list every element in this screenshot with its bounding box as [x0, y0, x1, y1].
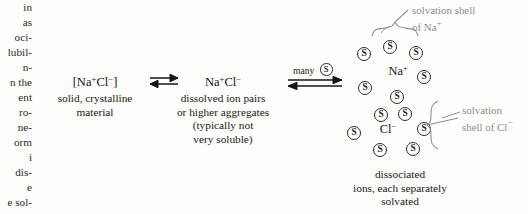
body-text-line: e	[27, 182, 32, 193]
body-text-line: ro-	[19, 107, 32, 118]
body-text-line: as	[23, 17, 32, 28]
cation-label-na: Na+	[388, 64, 407, 79]
solvent-molecule-icon: S	[417, 70, 431, 84]
body-text-line: i	[29, 152, 32, 163]
solvent-molecule-icon: S	[409, 46, 423, 60]
na-solvation-shell-label: solvation shell of Na+	[412, 4, 475, 34]
solvent-molecule-icon: S	[357, 47, 371, 61]
equilibrium-arrow-1	[150, 74, 178, 88]
stage1-caption-line: material	[58, 106, 133, 120]
body-text-line: oci-	[15, 32, 32, 43]
stage3-caption-line: ions, each separately	[353, 182, 447, 196]
solvent-molecule-icon: S	[358, 81, 372, 95]
cl-solvation-shell-label-line: solvation	[462, 104, 513, 117]
solvent-molecule-icon: S	[320, 63, 333, 76]
body-text-line: in	[23, 2, 32, 13]
stage1-formula: [Na+Cl−]	[73, 74, 118, 90]
cut-off-body-text-column: in as oci- lubil- n- n the ent ro- ne- o…	[0, 0, 34, 214]
body-text-line: n the	[10, 77, 32, 88]
stage3-caption-line: dissociated	[353, 168, 447, 182]
na-solvation-shell-label-line: solvation shell	[412, 4, 475, 17]
body-text-line: ent	[18, 92, 32, 103]
cl-solvation-shell-label: solvation shell of Cl−	[462, 104, 513, 134]
stage2-formula: Na+Cl−	[205, 74, 241, 90]
cl-shell-leader	[427, 118, 458, 125]
body-text-line: lubil-	[8, 47, 32, 58]
body-text-line: n-	[23, 62, 32, 73]
solvent-molecule-icon: S	[398, 107, 412, 121]
solvent-molecule-icon: S	[373, 143, 387, 157]
solvent-molecule-icon: S	[417, 122, 431, 136]
stage2-caption: dissolved ion pairs or higher aggregates…	[177, 92, 269, 146]
cl-solvation-shell-label-line: shell of Cl−	[462, 117, 513, 134]
anion-label-cl: Cl−	[380, 122, 396, 137]
na-solvation-shell-label-line: of Na+	[412, 17, 475, 34]
arrow2-label: many	[293, 64, 314, 77]
cl-shell-leader-2	[442, 112, 460, 118]
solvent-molecule-icon: S	[406, 142, 420, 156]
solvent-molecule-icon: S	[347, 126, 361, 140]
body-text-line: ne-	[18, 122, 32, 133]
stage2-caption-line: very soluble)	[177, 133, 269, 147]
na-shell-leader	[395, 10, 408, 22]
equilibrium-arrow-2	[288, 76, 342, 89]
stage3-caption: dissociated ions, each separately solvat…	[353, 168, 447, 209]
stage3-caption-line: solvated	[353, 195, 447, 209]
body-text-line: e sol-	[7, 197, 32, 208]
solvent-molecule-icon: S	[374, 108, 388, 122]
stage2-caption-line: (typically not	[177, 119, 269, 133]
solvent-molecule-icon: S	[383, 40, 397, 54]
body-text-line: dis-	[15, 167, 32, 178]
body-text-line: orm	[14, 137, 32, 148]
na-shell-leader-tail	[381, 26, 390, 33]
stage2-caption-line: dissolved ion pairs	[177, 92, 269, 106]
stage1-caption-line: solid, crystalline	[58, 92, 133, 106]
stage2-caption-line: or higher aggregates	[177, 106, 269, 120]
figure-canvas: in as oci- lubil- n- n the ent ro- ne- o…	[0, 0, 528, 214]
solvent-molecule-icon: S	[390, 90, 404, 104]
stage1-caption: solid, crystalline material	[58, 92, 133, 119]
